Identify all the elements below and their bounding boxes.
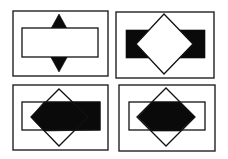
panel-bottom-left: [13, 85, 108, 150]
panel-bottom-right: [119, 85, 215, 151]
panel-top-left: [13, 11, 108, 76]
panel-top-right: [116, 12, 214, 78]
white-rectangle: [22, 28, 98, 57]
occlusion-diagram: [0, 0, 228, 159]
